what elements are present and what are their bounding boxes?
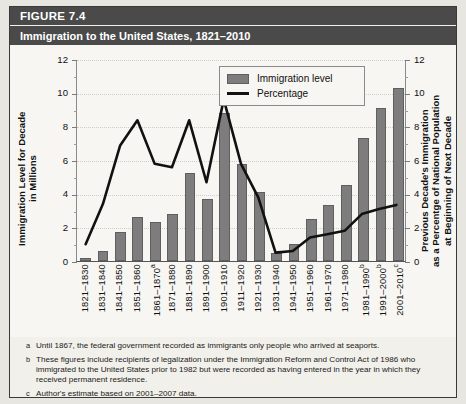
footnote-text: These figures include recipients of lega…: [36, 355, 442, 386]
footnote: bThese figures include recipients of leg…: [26, 355, 442, 386]
legend-line-swatch-icon: [227, 92, 249, 95]
axis-tick: [72, 262, 77, 263]
plot-area: 002244668810101212 Immigration levelPerc…: [76, 60, 406, 262]
y-axis-right-tick-label: 2: [414, 222, 436, 233]
axis-tick: [405, 195, 410, 196]
axis-tick: [405, 127, 410, 128]
axis-minor-tick: [405, 111, 408, 112]
legend-bar-swatch-icon: [227, 74, 249, 84]
x-axis-tick-label: 1851–1860: [132, 264, 142, 312]
x-axis-tick-label: 1861–1870a: [149, 264, 162, 316]
y-axis-right-tick-label: 0: [414, 256, 436, 267]
axis-tick: [405, 60, 410, 61]
footnote-text: Author's estimate based on 2001–2007 dat…: [36, 389, 442, 399]
axis-tick: [405, 94, 410, 95]
chart-legend: Immigration levelPercentage: [219, 66, 365, 106]
footnote-text: Until 1867, the federal government recor…: [36, 341, 442, 351]
x-axis-tick-labels: 1821–18301831–18401841–18501851–18601861…: [76, 264, 406, 334]
y-axis-left-tick-label: 8: [46, 121, 68, 132]
y-axis-left-tick-label: 2: [46, 222, 68, 233]
footnote: aUntil 1867, the federal government reco…: [26, 341, 442, 351]
x-axis-tick-label: 1971–1980: [340, 264, 350, 312]
x-axis-tick-label: 1981–1990b: [358, 264, 371, 316]
axis-minor-tick: [405, 245, 408, 246]
x-axis-tick-label: 1821–1830: [80, 264, 90, 312]
x-axis-tick-label: 1961–1970: [323, 264, 333, 312]
axis-minor-tick: [405, 77, 408, 78]
legend-item: Immigration level: [227, 71, 358, 86]
figure-title: Immigration to the United States, 1821–2…: [10, 25, 456, 45]
axis-minor-tick: [405, 212, 408, 213]
y-axis-left-tick-label: 10: [46, 87, 68, 98]
x-axis-tick-label: 1891–1900: [201, 264, 211, 312]
y-axis-left-tick-label: 12: [46, 54, 68, 65]
x-axis-tick-label: 1921–1930: [253, 264, 263, 312]
x-axis-tick-label: 2001–2010c: [392, 264, 405, 316]
footnote-marker: c: [26, 389, 36, 399]
x-axis-tick-label: 1841–1850: [114, 264, 124, 312]
footnotes: aUntil 1867, the federal government reco…: [10, 337, 456, 399]
axis-tick: [405, 262, 410, 263]
legend-item-label: Percentage: [257, 88, 308, 99]
y-axis-left-tick-label: 6: [46, 155, 68, 166]
x-axis-tick-label: 1831–1840: [97, 264, 107, 312]
y-axis-right-tick-label: 6: [414, 155, 436, 166]
x-axis-tick-label: 1931–1940: [271, 264, 281, 312]
y-axis-left-tick-label: 0: [46, 256, 68, 267]
y-axis-right-tick-label: 10: [414, 87, 436, 98]
x-axis-tick-label: 1941–1950: [288, 264, 298, 312]
y-axis-right-tick-label: 8: [414, 121, 436, 132]
x-axis-tick-label: 1871–1880: [167, 264, 177, 312]
legend-item: Percentage: [227, 86, 358, 101]
y-axis-right-tick-label: 4: [414, 188, 436, 199]
legend-item-label: Immigration level: [257, 73, 333, 84]
axis-minor-tick: [405, 144, 408, 145]
footnote: cAuthor's estimate based on 2001–2007 da…: [26, 389, 442, 399]
axis-tick: [405, 161, 410, 162]
x-axis-tick-label: 1951–1960: [305, 264, 315, 312]
figure-number-label: FIGURE 7.4: [10, 7, 456, 25]
x-axis-tick-label: 1901–1910: [219, 264, 229, 312]
y-axis-right-tick-label: 12: [414, 54, 436, 65]
x-axis-tick-label: 1911–1920: [236, 264, 246, 312]
y-axis-left-tick-label: 4: [46, 188, 68, 199]
axis-minor-tick: [405, 178, 408, 179]
footnote-marker: a: [26, 341, 36, 351]
chart-panel: Immigration Level for Decade in Millions…: [10, 45, 456, 337]
x-axis-tick-label: 1991–2000b: [375, 264, 388, 316]
y-axis-left-title: Immigration Level for Decade in Millions: [16, 89, 39, 269]
figure-card: FIGURE 7.4 Immigration to the United Sta…: [9, 6, 457, 398]
percentage-line: [86, 99, 397, 252]
footnote-marker: b: [26, 355, 36, 386]
x-axis-tick-label: 1881–1890: [184, 264, 194, 312]
axis-tick: [405, 228, 410, 229]
